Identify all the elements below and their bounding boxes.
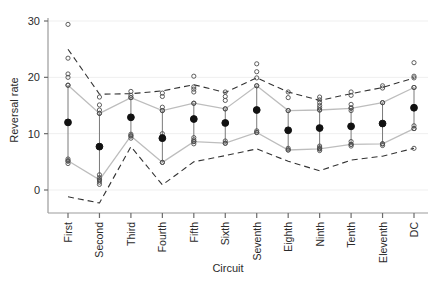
- x-tick-label-eleventh: Eleventh: [377, 222, 389, 263]
- x-tick-label-tenth: Tenth: [345, 222, 357, 248]
- x-tick-label-dc: DC: [408, 222, 420, 238]
- chart-container: 0102030 FirstSecondThirdFourthFifthSixth…: [0, 0, 436, 290]
- x-tick-labels: FirstSecondThirdFourthFifthSixthSeventhE…: [62, 222, 420, 263]
- x-tick-label-fourth: Fourth: [156, 222, 168, 253]
- y-axis-title: Reversal rate: [8, 77, 20, 142]
- x-tick-label-second: Second: [93, 222, 105, 258]
- y-tick-labels: 0102030: [28, 15, 40, 196]
- y-tick-label: 30: [28, 15, 40, 27]
- x-tick-label-fifth: Fifth: [188, 222, 200, 243]
- x-tick-label-first: First: [62, 222, 74, 242]
- x-tick-label-seventh: Seventh: [251, 222, 263, 261]
- y-tick-label: 0: [34, 184, 40, 196]
- x-tick-label-sixth: Sixth: [219, 222, 231, 246]
- gridlines: [48, 21, 428, 190]
- y-tick-label: 10: [28, 128, 40, 140]
- x-tick-label-third: Third: [125, 222, 137, 246]
- y-tick-label: 20: [28, 71, 40, 83]
- reversal-rate-scatter-chart: 0102030 FirstSecondThirdFourthFifthSixth…: [0, 0, 436, 290]
- prediction-band-lines: [68, 49, 414, 203]
- x-tick-label-eighth: Eighth: [282, 222, 294, 252]
- x-tick-label-ninth: Ninth: [314, 222, 326, 247]
- x-axis-title: Circuit: [212, 262, 243, 274]
- axes: [44, 18, 428, 218]
- mean-points: [65, 104, 418, 150]
